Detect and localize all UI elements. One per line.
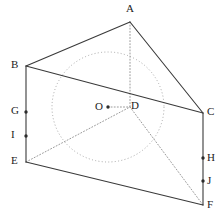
- hidden-edge-group: [26, 22, 203, 205]
- point-dot-i: [24, 134, 27, 137]
- point-dot-g: [24, 110, 27, 113]
- point-label-i: I: [11, 129, 15, 140]
- point-label-c: C: [207, 106, 214, 117]
- point-label-b: B: [11, 59, 18, 70]
- point-dot-o: [106, 105, 109, 108]
- point-label-d: D: [131, 100, 139, 111]
- solid-edge-group: [26, 22, 203, 205]
- edge-A-B: [26, 22, 130, 66]
- point-dot-j: [201, 179, 204, 182]
- geometry-figure: ABCDEFGHIJO: [0, 0, 224, 219]
- figure-canvas: [0, 0, 224, 219]
- point-label-o: O: [95, 101, 103, 112]
- edge-E-D: [26, 107, 130, 162]
- point-label-j: J: [207, 175, 211, 186]
- edge-A-C: [130, 22, 203, 113]
- point-dot-h: [201, 156, 204, 159]
- marked-point-group: [24, 105, 204, 182]
- point-label-g: G: [11, 105, 19, 116]
- point-label-e: E: [11, 155, 18, 166]
- edge-E-F: [26, 162, 203, 205]
- point-label-f: F: [207, 199, 213, 210]
- point-label-h: H: [207, 152, 215, 163]
- point-label-a: A: [126, 3, 134, 14]
- edge-B-C: [26, 66, 203, 113]
